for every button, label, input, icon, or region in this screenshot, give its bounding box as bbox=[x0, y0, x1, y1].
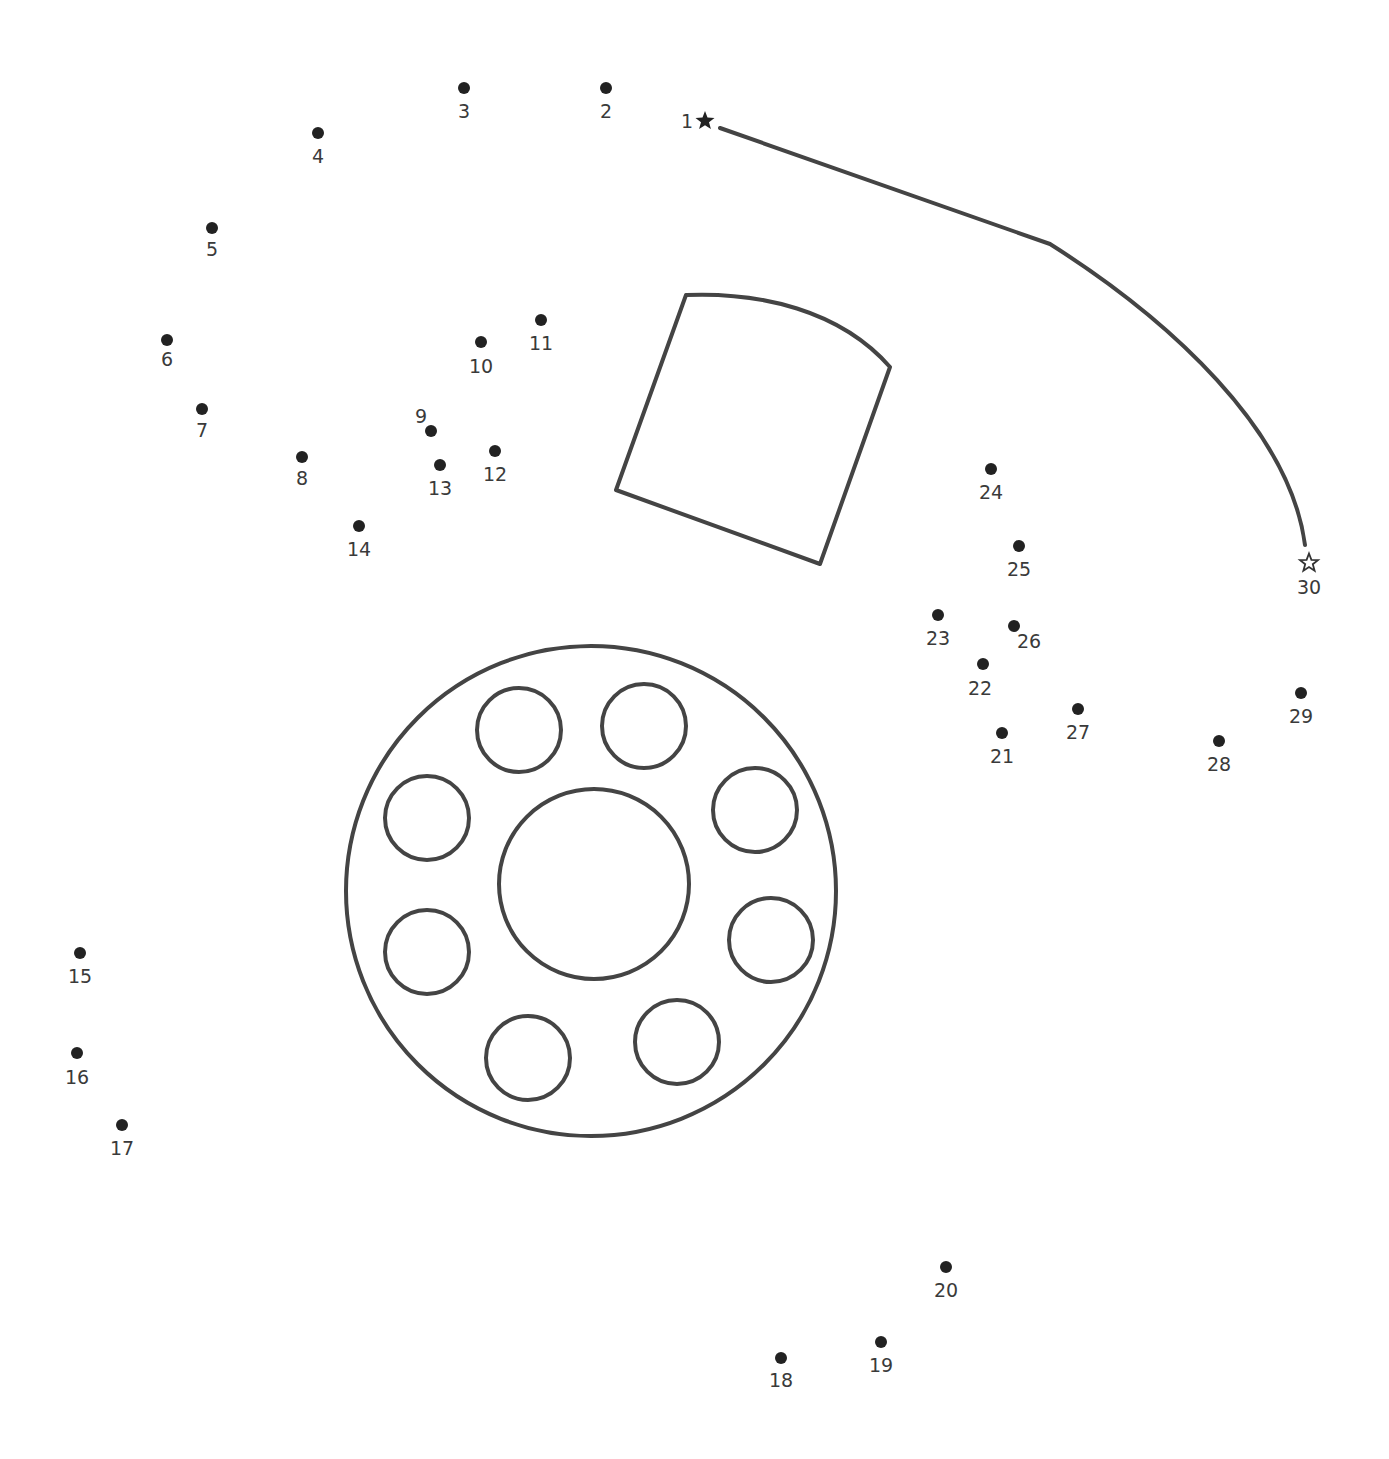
dot-marker[interactable] bbox=[296, 451, 308, 463]
dot-4[interactable]: 4 bbox=[312, 127, 324, 167]
dot-number-label: 29 bbox=[1289, 705, 1313, 727]
dot-number-label: 11 bbox=[529, 332, 553, 354]
dot-marker[interactable] bbox=[1213, 735, 1225, 747]
dot-number-label: 10 bbox=[469, 355, 493, 377]
numbered-dots: 2345678910111213141516171819202122232425… bbox=[65, 82, 1313, 1391]
dot-number-label: 27 bbox=[1066, 721, 1090, 743]
dot-marker[interactable] bbox=[196, 403, 208, 415]
dot-21[interactable]: 21 bbox=[990, 727, 1014, 767]
dot-number-label: 5 bbox=[206, 238, 218, 260]
dot-marker[interactable] bbox=[74, 947, 86, 959]
dot-marker[interactable] bbox=[353, 520, 365, 532]
dot-number-label: 26 bbox=[1017, 630, 1041, 652]
dot-19[interactable]: 19 bbox=[869, 1336, 893, 1376]
dot-number-label: 28 bbox=[1207, 753, 1231, 775]
outline-star-icon bbox=[1300, 554, 1318, 571]
dot-15[interactable]: 15 bbox=[68, 947, 92, 987]
dot-29[interactable]: 29 bbox=[1289, 687, 1313, 727]
dot-marker[interactable] bbox=[940, 1261, 952, 1273]
dot-10[interactable]: 10 bbox=[469, 336, 493, 377]
dot-to-dot-page: 1 30 23456789101112131415161718192021222… bbox=[0, 0, 1389, 1459]
dot-18[interactable]: 18 bbox=[769, 1352, 793, 1391]
dot-number-label: 15 bbox=[68, 965, 92, 987]
dot-marker[interactable] bbox=[116, 1119, 128, 1131]
dot-marker[interactable] bbox=[775, 1352, 787, 1364]
dot-11[interactable]: 11 bbox=[529, 314, 553, 354]
dot-marker[interactable] bbox=[932, 609, 944, 621]
small-circle bbox=[729, 898, 813, 982]
dot-marker[interactable] bbox=[1295, 687, 1307, 699]
dot-marker[interactable] bbox=[475, 336, 487, 348]
dot-number-label: 4 bbox=[312, 145, 324, 167]
dot-marker[interactable] bbox=[434, 459, 446, 471]
dot-marker[interactable] bbox=[161, 334, 173, 346]
dot-12[interactable]: 12 bbox=[483, 445, 507, 485]
dot-marker[interactable] bbox=[71, 1047, 83, 1059]
small-circle bbox=[486, 1016, 570, 1100]
dot-marker[interactable] bbox=[1013, 540, 1025, 552]
tilted-panel-shape bbox=[616, 295, 890, 564]
outer-circle bbox=[346, 646, 836, 1136]
dot-number-label: 21 bbox=[990, 745, 1014, 767]
dot-number-label: 25 bbox=[1007, 558, 1031, 580]
dot-marker[interactable] bbox=[458, 82, 470, 94]
dot-number-label: 19 bbox=[869, 1354, 893, 1376]
dot-23[interactable]: 23 bbox=[926, 609, 950, 649]
dot-marker[interactable] bbox=[985, 463, 997, 475]
dot-2[interactable]: 2 bbox=[600, 82, 612, 122]
dot-marker[interactable] bbox=[312, 127, 324, 139]
dot-number-label: 12 bbox=[483, 463, 507, 485]
guide-line bbox=[720, 128, 1305, 545]
dot-marker[interactable] bbox=[489, 445, 501, 457]
dot-number-label: 24 bbox=[979, 481, 1003, 503]
dot-marker[interactable] bbox=[535, 314, 547, 326]
dot-27[interactable]: 27 bbox=[1066, 703, 1090, 743]
dot-number-label: 13 bbox=[428, 477, 452, 499]
dot-6[interactable]: 6 bbox=[161, 334, 173, 370]
dot-20[interactable]: 20 bbox=[934, 1261, 958, 1301]
small-circle bbox=[713, 768, 797, 852]
dot-number-label: 6 bbox=[161, 348, 173, 370]
dot-marker[interactable] bbox=[977, 658, 989, 670]
dot-26[interactable]: 26 bbox=[1008, 620, 1041, 652]
start-end-markers: 1 30 bbox=[681, 110, 1321, 598]
dot-24[interactable]: 24 bbox=[979, 463, 1003, 503]
dot-number-label: 23 bbox=[926, 627, 950, 649]
dot-9[interactable]: 9 bbox=[415, 405, 437, 437]
dot-3[interactable]: 3 bbox=[458, 82, 470, 122]
dot-number-label: 17 bbox=[110, 1137, 134, 1159]
dot-marker[interactable] bbox=[206, 222, 218, 234]
start-number-label: 1 bbox=[681, 110, 693, 132]
dot-16[interactable]: 16 bbox=[65, 1047, 89, 1088]
dot-number-label: 22 bbox=[968, 677, 992, 699]
dot-8[interactable]: 8 bbox=[296, 451, 308, 489]
dot-13[interactable]: 13 bbox=[428, 459, 452, 499]
small-circle bbox=[635, 1000, 719, 1084]
dot-7[interactable]: 7 bbox=[196, 403, 208, 441]
filled-star-icon bbox=[696, 111, 715, 129]
end-number-label: 30 bbox=[1297, 576, 1321, 598]
dot-22[interactable]: 22 bbox=[968, 658, 992, 699]
dot-number-label: 20 bbox=[934, 1279, 958, 1301]
dot-5[interactable]: 5 bbox=[206, 222, 218, 260]
dot-number-label: 9 bbox=[415, 405, 427, 427]
dot-number-label: 3 bbox=[458, 100, 470, 122]
dot-marker[interactable] bbox=[1072, 703, 1084, 715]
small-circle bbox=[385, 776, 469, 860]
puzzle-canvas: 1 30 23456789101112131415161718192021222… bbox=[0, 0, 1389, 1459]
dot-14[interactable]: 14 bbox=[347, 520, 371, 560]
dot-number-label: 7 bbox=[196, 419, 208, 441]
small-circle bbox=[602, 684, 686, 768]
dot-marker[interactable] bbox=[875, 1336, 887, 1348]
dot-number-label: 16 bbox=[65, 1066, 89, 1088]
small-circle bbox=[477, 688, 561, 772]
dot-marker[interactable] bbox=[600, 82, 612, 94]
dot-number-label: 18 bbox=[769, 1369, 793, 1391]
dot-28[interactable]: 28 bbox=[1207, 735, 1231, 775]
line-art bbox=[346, 128, 1305, 1136]
dot-marker[interactable] bbox=[996, 727, 1008, 739]
dot-17[interactable]: 17 bbox=[110, 1119, 134, 1159]
small-circle bbox=[385, 910, 469, 994]
dot-number-label: 2 bbox=[600, 100, 612, 122]
dot-25[interactable]: 25 bbox=[1007, 540, 1031, 580]
